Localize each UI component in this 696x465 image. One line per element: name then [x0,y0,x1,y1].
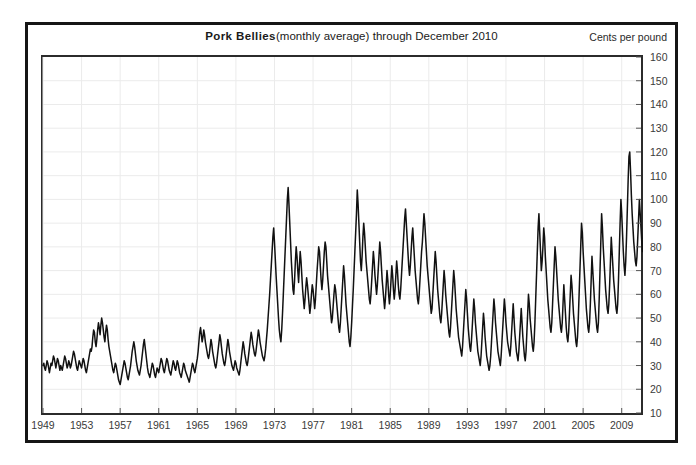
x-axis-tick-label: 1953 [70,419,93,431]
y-axis-tick-label: 90 [650,217,662,229]
x-axis-tick-label: 2009 [610,419,633,431]
x-axis-tick-label: 1985 [379,419,402,431]
x-axis-tick-label: 2005 [571,419,594,431]
y-axis-tick-label: 130 [650,122,668,134]
plot-wrapper: 102030405060708090100110120130140150160 … [41,55,643,415]
page-title: Pork Bellies(monthly average) through De… [28,30,675,42]
x-axis-tick-label: 1989 [417,419,440,431]
y-axis-tick-label: 120 [650,146,668,158]
x-axis-tick-label: 1969 [224,419,247,431]
x-axis-tick-label: 1961 [147,419,170,431]
gridlines [43,57,641,413]
y-axis-tick-label: 70 [650,265,662,277]
y-axis-tick-label: 140 [650,98,668,110]
y-axis-tick-label: 30 [650,360,662,372]
y-axis-tick-label: 40 [650,336,662,348]
y-axis-tick-label: 110 [650,170,667,182]
x-axis-tick-label: 1973 [263,419,286,431]
y-axis-tick-label: 100 [650,193,668,205]
x-axis-tick-label: 1993 [456,419,479,431]
chart-unit-label: Cents per pound [589,31,667,43]
y-axis-tick-label: 50 [650,312,662,324]
x-axis-tick-label: 1949 [31,419,54,431]
x-axis-tick-label: 1977 [301,419,324,431]
y-axis-tick-label: 20 [650,383,662,395]
y-axis-tick-label: 150 [650,75,668,87]
x-axis-tick-label: 1997 [494,419,517,431]
y-axis-tick-label: 10 [650,407,662,419]
y-axis-tick-label: 80 [650,241,662,253]
chart-canvas [41,55,643,415]
chart-title-sub: (monthly average) through December 2010 [276,30,498,42]
x-axis-tick-label: 1957 [108,419,131,431]
y-axis-tick-label: 60 [650,288,662,300]
chart-title-main: Pork Bellies [205,30,276,42]
y-axis-tick-label: 160 [650,51,668,63]
series-line [43,69,643,385]
chart-header: Pork Bellies(monthly average) through De… [28,25,675,52]
x-axis-tick-label: 2001 [533,419,556,431]
x-axis-tick-label: 1965 [186,419,209,431]
x-axis-tick-label: 1981 [340,419,363,431]
chart-figure: Pork Bellies(monthly average) through De… [25,22,678,443]
